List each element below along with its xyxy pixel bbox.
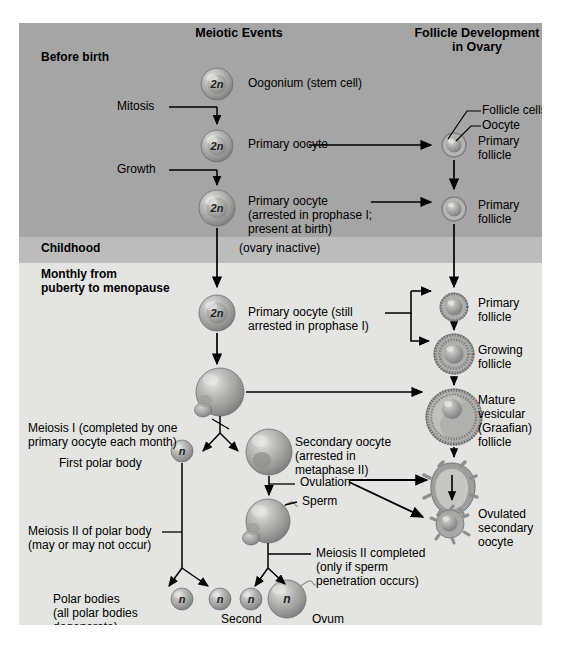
label-polar-bodies-line1: Polar bodies <box>53 593 120 606</box>
header-follicle-development-line2: in Ovary <box>402 40 542 54</box>
stage-label-childhood: Childhood <box>41 242 100 255</box>
label-mitosis: Mitosis <box>117 100 154 113</box>
label-meiosis-i-line1: Meiosis I (completed by one <box>28 422 177 435</box>
oogenesis-figure: 2n 2n 2n 2n n n n n n Meiotic Events Fol… <box>19 23 542 625</box>
label-mature-follicle-line3: (Graafian) <box>478 422 532 435</box>
ploidy-badge-primary-oocyte-1: 2n <box>201 130 233 162</box>
stage-label-monthly-line2: puberty to menopause <box>41 282 170 295</box>
label-sperm: Sperm <box>302 495 337 508</box>
label-oogonium: Oogonium (stem cell) <box>248 77 362 90</box>
header-follicle-development-line1: Follicle Development <box>402 26 542 40</box>
label-meiosis-ii-polar-line1: Meiosis II of polar body <box>28 525 151 538</box>
label-meiosis-ii-completed-line2: (only if sperm <box>316 561 388 574</box>
stage-label-before-birth: Before birth <box>41 51 109 64</box>
label-meiosis-ii-polar-line2: (may or may not occur) <box>28 539 151 552</box>
ploidy-badge-polar-body-b: n <box>209 588 231 610</box>
label-ovulation: Ovulation <box>300 476 351 489</box>
cell-secondary-oocyte <box>246 429 292 475</box>
label-mature-follicle-line2: vesicular <box>478 408 525 421</box>
label-ovulated-secondary-oocyte-line3: oocyte <box>478 536 513 549</box>
label-ovum: Ovum <box>312 613 344 625</box>
label-polar-bodies-line2: (all polar bodies <box>53 607 138 620</box>
label-second-polar-body-line1: Second <box>221 613 262 625</box>
label-primary-oocyte-2-line2: (arrested in prophase I; <box>248 209 372 222</box>
label-mature-follicle-line1: Mature <box>478 394 515 407</box>
label-primary-oocyte-2-line3: present at birth) <box>248 223 332 236</box>
label-meiosis-i-line2: primary oocyte each month) <box>28 436 177 449</box>
label-secondary-oocyte-line2: (arrested in <box>295 450 356 463</box>
label-primary-follicle-3-line2: follicle <box>478 311 511 324</box>
label-primary-follicle-2-line1: Primary <box>478 199 519 212</box>
label-ovulated-secondary-oocyte-line1: Ovulated <box>478 508 526 521</box>
label-secondary-oocyte-line1: Secondary oocyte <box>295 436 391 449</box>
follicle-mature-vesicular <box>426 389 482 445</box>
follicle-primary-2 <box>442 197 466 221</box>
ploidy-badge-second-polar-body: n <box>240 588 262 610</box>
ploidy-badge-oogonium: 2n <box>201 68 233 100</box>
label-first-polar-body: First polar body <box>59 457 142 470</box>
header-meiotic-events: Meiotic Events <box>149 26 329 40</box>
label-primary-follicle-2-line2: follicle <box>478 213 511 226</box>
stage-label-monthly-line1: Monthly from <box>41 268 117 281</box>
follicle-primary-3 <box>440 293 468 321</box>
ploidy-badge-primary-oocyte-2: 2n <box>199 190 235 226</box>
label-meiosis-ii-completed-line1: Meiosis II completed <box>316 547 425 560</box>
label-growing-follicle-line2: follicle <box>478 358 511 371</box>
label-primary-oocyte-3-line1: Primary oocyte (still <box>248 306 353 319</box>
label-primary-follicle-1-line1: Primary <box>478 135 519 148</box>
follicle-growing <box>434 334 474 374</box>
label-growth: Growth <box>117 163 156 176</box>
label-polar-bodies-line3: degenerate) <box>53 621 118 625</box>
cell-oocyte-meiosis-i <box>195 368 245 417</box>
label-primary-follicle-3-line1: Primary <box>478 297 519 310</box>
ploidy-badge-primary-oocyte-3: 2n <box>199 295 235 331</box>
label-mature-follicle-line4: follicle <box>478 436 511 449</box>
label-ovary-inactive: (ovary inactive) <box>239 242 320 255</box>
cell-oocyte-with-sperm <box>243 499 299 545</box>
follicle-primary-1 <box>442 133 466 157</box>
label-growing-follicle-line1: Growing <box>478 344 523 357</box>
label-primary-oocyte-3-line2: arrested in prophase I) <box>248 320 369 333</box>
label-meiosis-ii-completed-line3: penetration occurs) <box>316 575 419 588</box>
ploidy-badge-ovum: n <box>269 581 305 617</box>
label-oocyte: Oocyte <box>482 119 520 132</box>
label-ovulated-secondary-oocyte-line2: secondary <box>478 522 533 535</box>
label-primary-oocyte-2-line1: Primary oocyte <box>248 195 328 208</box>
label-primary-follicle-1-line2: follicle <box>478 149 511 162</box>
label-follicle-cells: Follicle cells <box>482 104 542 117</box>
label-primary-oocyte-1: Primary oocyte <box>248 138 328 151</box>
ploidy-badge-polar-body-a: n <box>171 588 193 610</box>
diagram-connectors <box>162 107 481 586</box>
